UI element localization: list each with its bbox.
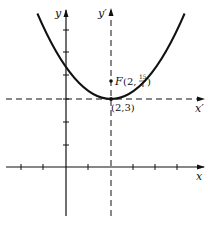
coordinate-plane: y y′ x x′ (2,3) F (2, 15 4 ) [0,0,208,227]
focus-frac-num: 15 [139,73,147,80]
svg-text:(2,: (2, [123,76,136,87]
x-prime-axis-label: x′ [195,102,204,115]
parabola-curve [37,14,184,100]
y-axis-label: y [54,7,62,20]
svg-text:F: F [114,75,123,88]
y-prime-axis-label: y′ [97,7,107,20]
vertex-label: (2,3) [111,102,135,113]
diagram-canvas: y y′ x x′ (2,3) F (2, 15 4 ) [0,0,208,227]
svg-text:): ) [147,76,151,87]
x-axis-label: x [196,170,203,183]
focus-frac-den: 4 [141,81,145,88]
focus-point [109,79,113,83]
vertex-point [109,97,113,101]
